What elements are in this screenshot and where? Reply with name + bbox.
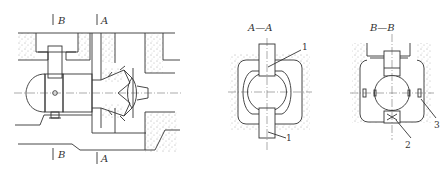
callout-1-lower: 1: [286, 133, 292, 143]
section-label-a-bottom: A: [100, 153, 108, 164]
technical-drawing: B A B A: [0, 0, 446, 171]
section-a-a: A—A 1 1: [228, 22, 312, 150]
main-view: B A B A: [14, 14, 182, 164]
callout-1-upper: 1: [302, 42, 308, 52]
section-mark-a-top: A: [97, 14, 108, 26]
section-b-b-title: B—B: [369, 22, 395, 33]
section-label-a-top: A: [100, 15, 108, 26]
section-label-b-top: B: [57, 15, 65, 26]
section-mark-b-top: B: [53, 14, 65, 26]
section-mark-b-bottom: B: [53, 148, 65, 160]
section-b-b: B—B 2 3: [350, 22, 440, 150]
callout-3: 3: [434, 120, 440, 130]
callout-2: 2: [405, 140, 411, 150]
section-a-a-title: A—A: [247, 22, 272, 33]
section-mark-a-bottom: A: [97, 152, 108, 164]
section-label-b-bottom: B: [57, 149, 65, 160]
